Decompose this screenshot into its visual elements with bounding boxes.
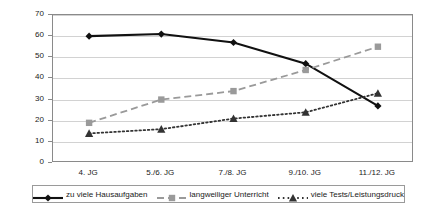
data-point bbox=[303, 67, 309, 73]
legend-item[interactable]: zu viele Hausaufgaben bbox=[33, 189, 147, 199]
legend-item[interactable]: langweiliger Unterricht bbox=[157, 189, 269, 199]
x-tick-label: 4. JG bbox=[79, 168, 98, 177]
y-tick-label: 10 bbox=[0, 137, 44, 145]
x-tick-label: 7./8. JG bbox=[218, 168, 246, 177]
x-tick-label: 9./10. JG bbox=[288, 168, 320, 177]
data-point bbox=[86, 33, 93, 40]
chart-container: Prozent 706050403020100 4. JG5./6. JG7./… bbox=[0, 0, 435, 212]
data-point bbox=[158, 30, 165, 37]
legend-label: langweiliger Unterricht bbox=[190, 190, 269, 199]
legend-marker-triangle-icon bbox=[278, 189, 308, 199]
data-point bbox=[374, 89, 382, 97]
series-layer bbox=[53, 15, 414, 163]
y-tick-label: 20 bbox=[0, 116, 44, 124]
data-point bbox=[230, 88, 236, 94]
series-line bbox=[89, 47, 378, 123]
y-tick-label: 0 bbox=[0, 158, 44, 166]
series-triangle bbox=[85, 89, 382, 137]
series-square bbox=[86, 44, 381, 127]
plot-area bbox=[52, 14, 413, 162]
legend-label: viele Tests/Leistungsdruck bbox=[311, 190, 404, 199]
data-point bbox=[375, 44, 381, 50]
y-tick-label: 30 bbox=[0, 95, 44, 103]
y-axis-ticks: 706050403020100 bbox=[0, 14, 48, 162]
data-point bbox=[85, 129, 93, 137]
y-tick-label: 60 bbox=[0, 31, 44, 39]
y-tick-label: 40 bbox=[0, 73, 44, 81]
chart-legend: zu viele Hausaufgabenlangweiliger Unterr… bbox=[32, 185, 405, 203]
data-point bbox=[158, 96, 164, 102]
x-tick-label: 11./12. JG bbox=[359, 168, 395, 177]
y-tick-label: 50 bbox=[0, 52, 44, 60]
data-point bbox=[86, 120, 92, 126]
legend-item[interactable]: viele Tests/Leistungsdruck bbox=[278, 189, 404, 199]
y-tick-mark bbox=[48, 162, 52, 163]
x-tick-label: 5./6. JG bbox=[146, 168, 174, 177]
legend-marker-diamond-icon bbox=[33, 189, 63, 199]
series-diamond bbox=[86, 30, 382, 109]
data-point bbox=[230, 39, 237, 46]
series-line bbox=[89, 93, 378, 133]
legend-marker-square-icon bbox=[157, 189, 187, 199]
x-axis-ticks: 4. JG5./6. JG7./8. JG9./10. JG11./12. JG bbox=[52, 168, 413, 182]
y-tick-label: 70 bbox=[0, 10, 44, 18]
legend-label: zu viele Hausaufgaben bbox=[66, 190, 147, 199]
